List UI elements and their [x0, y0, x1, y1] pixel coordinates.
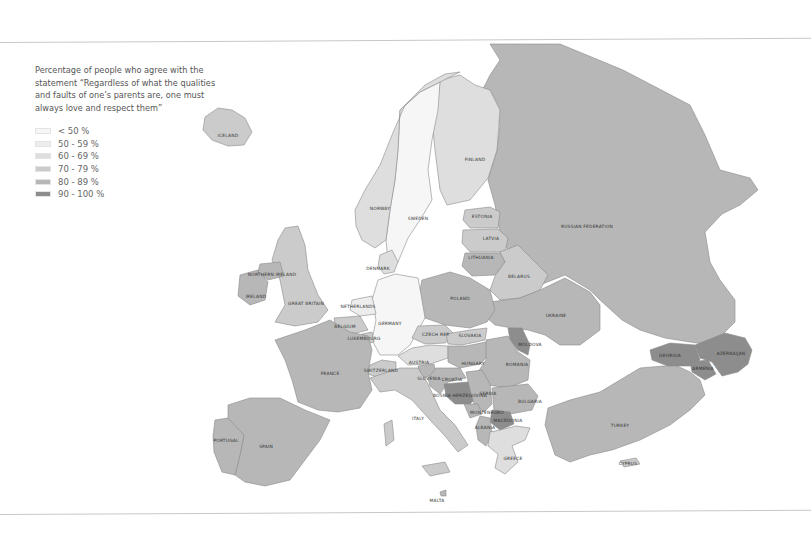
label-ukraine: UKRAINE: [546, 313, 567, 318]
label-france: FRANCE: [321, 371, 340, 376]
label-cyprus: CYPRUS: [619, 461, 638, 466]
label-great-britain: GREAT BRITAIN: [288, 301, 324, 306]
label-moldova: MOLDOVA: [518, 342, 542, 347]
country-italy-sardinia: [384, 420, 394, 446]
label-belarus: BELARUS: [508, 274, 530, 279]
label-hungary: HUNGARY: [461, 361, 484, 366]
label-luxembourg: LUXEMBOURG: [347, 336, 380, 341]
label-czech-rep: CZECH REP.: [422, 332, 450, 337]
label-armenia: ARMENIA: [692, 366, 714, 371]
label-azerbaijan: AZERBAIJAN: [717, 351, 746, 356]
europe-map: ICELAND NORWAY SWEDEN FINLAND RUSSIAN FE…: [0, 0, 811, 541]
country-turkey: [545, 365, 705, 462]
country-italy-sicily: [422, 462, 450, 476]
country-germany: [372, 274, 425, 355]
label-sweden: SWEDEN: [408, 216, 429, 221]
label-russian-federation: RUSSIAN FEDERATION: [561, 224, 613, 229]
label-northern-ireland: NORTHERN IRELAND: [248, 272, 297, 277]
country-spain: [228, 398, 330, 486]
country-france: [275, 320, 372, 412]
label-austria: AUSTRIA: [409, 360, 429, 365]
label-montenegro: MONTENEGRO: [470, 410, 504, 415]
label-iceland: ICELAND: [218, 133, 239, 138]
label-norway: NORWAY: [370, 206, 390, 211]
label-croatia: CROATIA: [442, 377, 463, 382]
label-slovenia: SLOVENIA: [417, 376, 440, 381]
label-bulgaria: BULGARIA: [518, 399, 542, 404]
label-finland: FINLAND: [465, 157, 486, 162]
label-turkey: TURKEY: [610, 423, 630, 428]
label-portugal: PORTUGAL: [213, 438, 239, 443]
label-denmark: DENMARK: [366, 266, 390, 271]
label-lithuania: LITHUANIA: [468, 255, 493, 260]
label-switzerland: SWITZERLAND: [364, 368, 399, 373]
label-estonia: ESTONIA: [472, 214, 493, 219]
label-latvia: LATVIA: [483, 236, 499, 241]
label-serbia: SERBIA: [479, 391, 496, 396]
label-slovakia: SLOVAKIA: [459, 333, 482, 338]
label-albania: ALBANIA: [475, 425, 495, 430]
country-malta: [440, 490, 446, 496]
label-germany: GERMANY: [378, 321, 402, 326]
label-netherlands: NETHERLANDS: [340, 304, 375, 309]
country-iceland: [203, 108, 252, 146]
label-malta: MALTA: [430, 498, 445, 503]
label-macedonia: MACEDONIA: [494, 418, 523, 423]
country-greece: [488, 426, 530, 474]
label-poland: POLAND: [450, 296, 470, 301]
label-georgia: GEORGIA: [659, 353, 681, 358]
label-italy: ITALY: [412, 416, 424, 421]
label-romania: ROMANIA: [506, 362, 528, 367]
label-greece: GREECE: [503, 456, 522, 461]
label-spain: SPAIN: [259, 444, 273, 449]
label-ireland: IRELAND: [246, 294, 267, 299]
label-belgium: BELGIUM: [334, 324, 355, 329]
